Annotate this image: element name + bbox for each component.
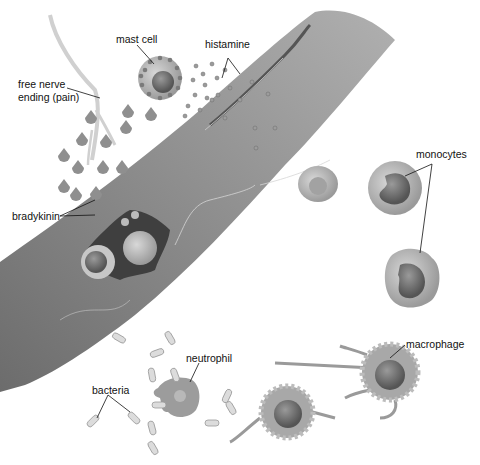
neutrophil (154, 378, 200, 417)
emerging-cell (298, 166, 338, 202)
inflammation-diagram: mast cell histamine free nerve ending (p… (0, 0, 480, 465)
blood-vessel (0, 11, 395, 392)
label-macrophage: macrophage (406, 338, 464, 350)
label-free-nerve-ending-line1: free nerve (18, 78, 65, 90)
label-histamine: histamine (205, 38, 250, 50)
label-free-nerve-ending-line2: ending (pain) (18, 91, 79, 103)
label-monocytes: monocytes (416, 148, 467, 160)
monocyte-2 (385, 249, 440, 308)
diagram-artwork (0, 0, 480, 465)
macrophage-2 (230, 386, 335, 442)
label-bacteria: bacteria (92, 384, 129, 396)
label-mast-cell: mast cell (116, 33, 157, 45)
label-bradykinin: bradykinin (12, 210, 60, 222)
mast-cell (138, 56, 182, 101)
monocyte-1 (368, 161, 422, 215)
label-neutrophil: neutrophil (186, 352, 232, 364)
